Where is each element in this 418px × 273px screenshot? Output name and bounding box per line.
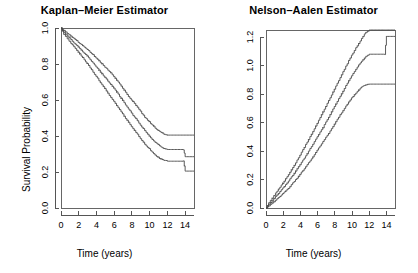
xtick-km-4: 4 [94, 220, 99, 230]
xtick-na-12: 12 [364, 220, 374, 230]
ytick-na-1: 1.2 [245, 31, 255, 44]
xtick-km-14: 14 [180, 220, 190, 230]
y-tick-labels-km: 1.0 0.8 0.6 0.4 0.2 0.0 [40, 22, 50, 215]
ytick-na-3: 0.8 [245, 88, 255, 101]
xtick-na-4: 4 [298, 220, 303, 230]
xtick-na-10: 10 [347, 220, 357, 230]
curve-km-middle [61, 28, 194, 157]
survival-analysis-figure: Kaplan–Meier Estimator 1.0 0.8 0.6 0.4 0… [0, 0, 418, 273]
ytick-na-5: 0.4 [245, 145, 255, 158]
xtick-km-6: 6 [112, 220, 117, 230]
ytick-km-4: 0.4 [40, 130, 50, 143]
curves-kaplan-meier [61, 28, 194, 171]
x-ticks-km [61, 211, 185, 215]
x-ticks-na [266, 211, 386, 215]
y-ticks-km [55, 28, 59, 208]
ytick-km-2: 0.8 [40, 58, 50, 71]
ytick-na-2: 1.0 [245, 59, 255, 72]
ytick-km-1: 1.0 [40, 22, 50, 35]
xtick-na-14: 14 [381, 220, 391, 230]
xtick-na-8: 8 [332, 220, 337, 230]
curve-km-upper [61, 28, 194, 135]
y-axis-title-km: Survival Probability [21, 107, 32, 192]
xtick-km-0: 0 [58, 220, 63, 230]
x-axis-title-na: Time (years) [209, 248, 418, 259]
xtick-km-12: 12 [162, 220, 172, 230]
xtick-km-2: 2 [76, 220, 81, 230]
curves-nelson-aalen [266, 30, 395, 208]
ytick-na-7: 0.0 [245, 202, 255, 215]
curve-na-lower [266, 84, 395, 208]
x-tick-labels-na: 0 2 4 6 8 10 12 14 [263, 220, 391, 230]
y-ticks-na [260, 37, 264, 208]
panel-kaplan-meier: Kaplan–Meier Estimator 1.0 0.8 0.6 0.4 0… [0, 0, 209, 273]
y-tick-labels-na: 1.2 1.0 0.8 0.6 0.4 0.2 0.0 [245, 31, 255, 215]
x-tick-labels-km: 0 2 4 6 8 10 12 14 [58, 220, 190, 230]
ytick-na-6: 0.2 [245, 173, 255, 186]
xtick-km-10: 10 [145, 220, 155, 230]
ytick-km-5: 0.2 [40, 166, 50, 179]
plot-area-nelson-aalen: 1.2 1.0 0.8 0.6 0.4 0.2 0.0 0 [209, 0, 418, 273]
x-axis-title-km: Time (years) [0, 248, 209, 259]
curve-na-upper [266, 30, 395, 208]
xtick-na-0: 0 [263, 220, 268, 230]
panel-nelson-aalen: Nelson–Aalen Estimator 1.2 1.0 0.8 0.6 0… [209, 0, 418, 273]
ytick-km-3: 0.6 [40, 94, 50, 107]
xtick-km-8: 8 [129, 220, 134, 230]
xtick-na-2: 2 [281, 220, 286, 230]
xtick-na-6: 6 [315, 220, 320, 230]
ytick-na-4: 0.6 [245, 116, 255, 129]
curve-na-middle [266, 36, 395, 207]
ytick-km-6: 0.0 [40, 202, 50, 215]
